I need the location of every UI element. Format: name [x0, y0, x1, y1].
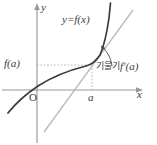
- x-tick-a-label: a: [88, 92, 94, 103]
- function-curve: [8, 3, 111, 113]
- slope-korean-label: 기울기: [96, 62, 120, 71]
- y-axis: [34, 3, 40, 143]
- derivative-label: f′(a): [120, 61, 138, 72]
- y-axis-label: y: [41, 2, 46, 13]
- origin-label: O: [29, 92, 37, 103]
- tangent-line-diagram: y=f(x) 기울기 f′(a) f(a) O a x y: [0, 0, 157, 145]
- curve-equation-label: y=f(x): [62, 14, 90, 25]
- x-axis-label: x: [137, 89, 142, 100]
- fa-value-label: f(a): [4, 58, 20, 69]
